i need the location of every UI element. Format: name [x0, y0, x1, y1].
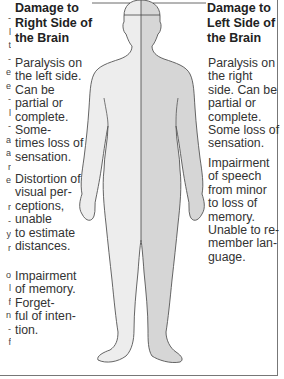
left-brain-heading: Damage to Left Side of the Brain: [207, 1, 282, 46]
right-brain-effect-visual: Distortion of visual per- ceptions, unab…: [15, 173, 81, 253]
right-brain-heading: Damage to Right Side of the Brain: [15, 1, 115, 46]
left-brain-effect-paralysis: Paralysis on the right side. Can be part…: [208, 57, 279, 151]
left-brain-effect-speech: Impairment of speech from minor to loss …: [208, 157, 279, 264]
right-brain-effect-paralysis: Paralysis on the left side. Can be parti…: [15, 57, 83, 164]
right-brain-effect-memory: Impairment of memory. Forget- ful of int…: [15, 270, 77, 337]
